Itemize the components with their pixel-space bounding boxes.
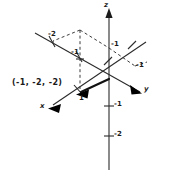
drop-tick-label-neg1: -1 [71, 49, 79, 56]
z-axis-label: z [104, 2, 108, 9]
x-axis-label: x [40, 103, 45, 110]
y-axis-arrowhead [130, 85, 142, 95]
x-tick-neg1 [104, 57, 112, 65]
coordinate-figure: z y x -1 -2 -2 -1 -1 -1 1 (-1, -2, -2) [0, 0, 169, 177]
point-coordinate-label: (-1, -2, -2) [12, 79, 62, 87]
x-tick-label-neg1-outer: -1 [136, 62, 144, 69]
x-tick-label-pos1: 1 [79, 95, 84, 102]
dashed-top-left-edge [53, 30, 80, 41]
dashed-right-edge [109, 48, 135, 66]
y-axis-label: y [144, 86, 149, 93]
z-tick-label-neg2: -2 [114, 131, 122, 138]
z-axis-arrowhead [105, 8, 112, 18]
x-tick-neg1b [128, 41, 136, 49]
vector-to-point [81, 79, 109, 92]
y-tick-label-neg2: -2 [48, 31, 56, 38]
x-axis-arrowhead [48, 104, 61, 113]
dashed-top-right-edge [80, 30, 109, 48]
x-tick-label-neg1: -1 [111, 41, 119, 48]
z-tick-label-neg1: -1 [114, 101, 122, 108]
